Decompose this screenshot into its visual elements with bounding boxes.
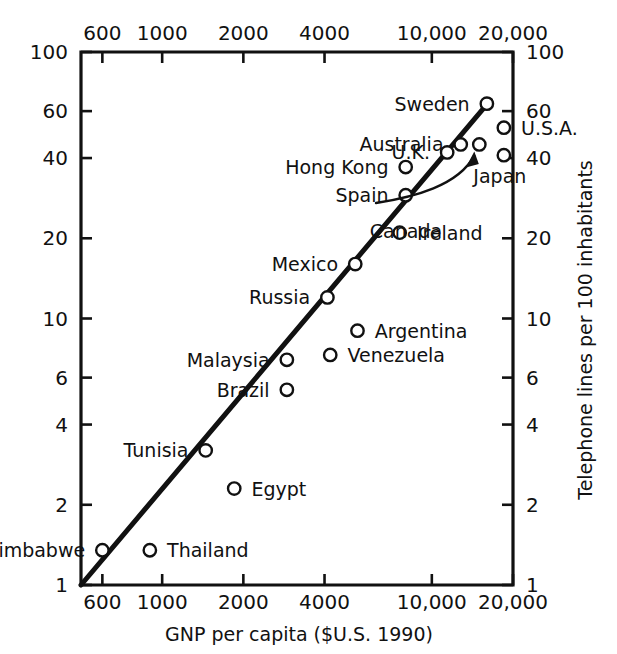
y-ticklabel-left: 60: [43, 99, 68, 123]
y-ticklabel-right: 10: [526, 307, 551, 331]
y-ticklabel-left: 100: [30, 40, 68, 64]
y-ticklabel-left: 4: [55, 413, 68, 437]
data-point-marker: [455, 138, 467, 150]
y-ticklabel-left: 2: [55, 493, 68, 517]
data-point-marker: [281, 354, 293, 366]
data-point-marker: [321, 291, 333, 303]
data-point-label: Thailand: [166, 539, 249, 561]
y-ticklabel-left: 10: [43, 307, 68, 331]
data-point-marker: [324, 349, 336, 361]
data-point-label: Mexico: [272, 253, 338, 275]
x-ticklabel-bottom: 10,000: [397, 590, 467, 614]
data-point-label: Russia: [249, 286, 310, 308]
y-ticklabel-left: 20: [43, 226, 68, 250]
data-point-label: Brazil: [217, 379, 270, 401]
data-point-marker: [473, 138, 485, 150]
data-point-marker: [228, 482, 240, 494]
data-point-marker: [281, 384, 293, 396]
y-ticklabel-right: 40: [526, 146, 551, 170]
data-point-marker: [349, 258, 361, 270]
data-point-marker: [199, 444, 211, 456]
y-ticklabel-right: 100: [526, 40, 564, 64]
y-ticklabel-right: 6: [526, 366, 539, 390]
y-ticklabel-right: 4: [526, 413, 539, 437]
canada-annotation-label: Canada: [370, 220, 442, 242]
data-point-marker: [481, 97, 493, 109]
data-point-label: Egypt: [251, 478, 306, 500]
data-point-label: Zimbabwe: [0, 539, 85, 561]
x-ticklabel-bottom: 1000: [137, 590, 188, 614]
y-axis-title: Telephone lines per 100 inhabitants: [574, 160, 596, 501]
y-ticklabel-left: 6: [55, 366, 68, 390]
data-point-marker: [498, 149, 510, 161]
data-point-label: Sweden: [395, 93, 470, 115]
x-ticklabel-top: 1000: [137, 21, 188, 45]
data-point-marker: [351, 324, 363, 336]
data-point-marker: [498, 121, 510, 133]
data-point-label: Japan: [472, 165, 526, 187]
data-point-marker: [399, 161, 411, 173]
data-point-label: Tunisia: [123, 439, 189, 461]
y-ticklabel-left: 40: [43, 146, 68, 170]
data-point-label: Malaysia: [187, 349, 270, 371]
telephone-lines-vs-gnp-scatter-chart: 60060010001000200020004000400010,00010,0…: [0, 0, 617, 654]
data-point-label: Venezuela: [347, 344, 445, 366]
x-ticklabel-top: 600: [83, 21, 121, 45]
x-ticklabel-bottom: 600: [83, 590, 121, 614]
data-point-label: Argentina: [375, 320, 468, 342]
data-point-label: Hong Kong: [285, 156, 388, 178]
y-ticklabel-left: 1: [55, 573, 68, 597]
data-point-label: U.S.A.: [521, 117, 578, 139]
chart-container: 60060010001000200020004000400010,00010,0…: [0, 0, 617, 654]
y-ticklabel-right: 2: [526, 493, 539, 517]
x-ticklabel-top: 4000: [299, 21, 350, 45]
x-ticklabel-bottom: 2000: [218, 590, 269, 614]
x-ticklabel-top: 10,000: [397, 21, 467, 45]
data-point-marker: [441, 146, 453, 158]
data-points: SwedenU.S.A.AustraliaU.K.JapanHong KongS…: [0, 93, 578, 562]
data-point-label: U.K.: [392, 141, 430, 163]
data-point-marker: [144, 544, 156, 556]
y-ticklabel-right: 1: [526, 573, 539, 597]
x-axis-title: GNP per capita ($U.S. 1990): [165, 623, 433, 645]
y-ticklabel-right: 20: [526, 226, 551, 250]
data-point-marker: [96, 544, 108, 556]
x-ticklabel-bottom: 4000: [299, 590, 350, 614]
x-ticklabel-top: 2000: [218, 21, 269, 45]
